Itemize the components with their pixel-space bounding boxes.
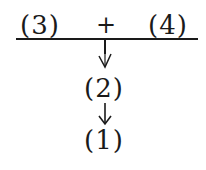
combination-line bbox=[16, 38, 198, 40]
label-2: (2) bbox=[84, 75, 124, 101]
label-3: (3) bbox=[20, 12, 60, 38]
label-4: (4) bbox=[148, 12, 188, 38]
plus-operator: + bbox=[96, 12, 117, 38]
down-arrow-icon bbox=[96, 102, 114, 126]
label-1: (1) bbox=[84, 127, 124, 153]
down-arrow-icon bbox=[96, 52, 114, 70]
